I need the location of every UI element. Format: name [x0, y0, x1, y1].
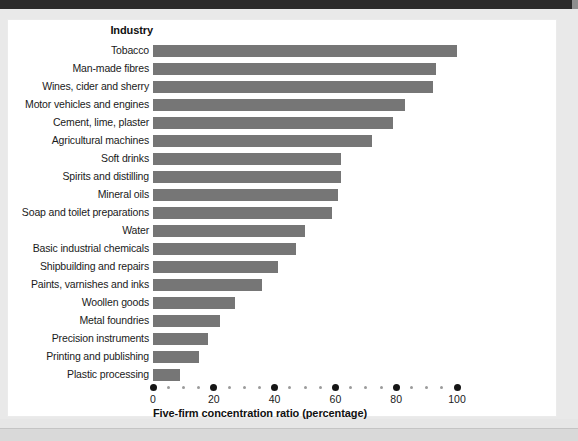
x-axis-minor-tick-dot: [349, 386, 352, 389]
bar: [153, 207, 332, 219]
bar-row-track: [153, 330, 556, 348]
bar-row-label: Water: [8, 222, 149, 240]
bar-row-track: [153, 96, 556, 114]
bar-row-label: Soap and toilet preparations: [8, 204, 149, 222]
x-axis-tick-label: 60: [330, 393, 342, 405]
bar-row-label: Tobacco: [8, 42, 149, 60]
bar-row-label: Agricultural machines: [8, 132, 149, 150]
category-axis-title: Industry: [8, 24, 153, 36]
bar: [153, 99, 405, 111]
bar-row: Soap and toilet preparations: [8, 204, 556, 222]
bar-chart: Industry TobaccoMan-made fibresWines, ci…: [8, 20, 556, 416]
x-axis-title: Five-firm concentration ratio (percentag…: [153, 407, 367, 419]
bar-row-label: Motor vehicles and engines: [8, 96, 149, 114]
bar: [153, 351, 199, 363]
bar-row-label: Soft drinks: [8, 150, 149, 168]
bar-row: Shipbuilding and repairs: [8, 258, 556, 276]
bar-row-label: Shipbuilding and repairs: [8, 258, 149, 276]
bar: [153, 279, 262, 291]
bar: [153, 225, 305, 237]
x-axis-minor-tick-dot: [243, 386, 246, 389]
x-axis-major-tick-dot: [454, 384, 461, 391]
page-bottom-band: [0, 428, 578, 441]
x-axis-major-tick-dot: [210, 384, 217, 391]
bar-row-track: [153, 294, 556, 312]
bar-row-label: Spirits and distilling: [8, 168, 149, 186]
bar-row-track: [153, 150, 556, 168]
bar-row-track: [153, 186, 556, 204]
bar-row: Soft drinks: [8, 150, 556, 168]
x-axis-minor-tick-dot: [228, 386, 231, 389]
bar-row-label: Plastic processing: [8, 366, 149, 384]
chart-card: Industry TobaccoMan-made fibresWines, ci…: [8, 20, 556, 416]
x-axis-major-tick-dot: [332, 384, 339, 391]
bar-row-track: [153, 168, 556, 186]
x-axis-major-tick-dot: [271, 384, 278, 391]
x-axis-minor-tick-dot: [410, 386, 413, 389]
bar-row-label: Woollen goods: [8, 294, 149, 312]
x-axis-minor-tick-dot: [425, 386, 428, 389]
bar-rows: TobaccoMan-made fibresWines, cider and s…: [8, 42, 556, 384]
x-axis-major-tick-dot: [150, 384, 157, 391]
x-axis-tick-label: 100: [448, 393, 466, 405]
bar-row: Spirits and distilling: [8, 168, 556, 186]
x-axis-minor-tick-dot: [167, 386, 170, 389]
bar: [153, 297, 235, 309]
x-axis-tick-label: 80: [390, 393, 402, 405]
bar-row-track: [153, 204, 556, 222]
bar-row-label: Precision instruments: [8, 330, 149, 348]
bar-row-label: Wines, cider and sherry: [8, 78, 149, 96]
bar: [153, 153, 341, 165]
bar-row: Paints, varnishes and inks: [8, 276, 556, 294]
bar-row-label: Paints, varnishes and inks: [8, 276, 149, 294]
bar-row-track: [153, 276, 556, 294]
bar-row-track: [153, 240, 556, 258]
bar: [153, 333, 208, 345]
bar: [153, 315, 220, 327]
bar-row: Man-made fibres: [8, 60, 556, 78]
bar-row-track: [153, 348, 556, 366]
bar-row-track: [153, 132, 556, 150]
x-axis-minor-tick-dot: [304, 386, 307, 389]
bar-row-label: Cement, lime, plaster: [8, 114, 149, 132]
bar-row: Woollen goods: [8, 294, 556, 312]
bar-row-track: [153, 60, 556, 78]
bar: [153, 189, 338, 201]
bar-row-label: Mineral oils: [8, 186, 149, 204]
x-axis-minor-tick-dot: [380, 386, 383, 389]
bar: [153, 243, 296, 255]
bar-row-track: [153, 78, 556, 96]
bar-row: Water: [8, 222, 556, 240]
bar: [153, 135, 372, 147]
bar-row-track: [153, 366, 556, 384]
x-axis-minor-tick-dot: [319, 386, 322, 389]
bar-row: Agricultural machines: [8, 132, 556, 150]
x-axis-tick-label: 0: [150, 393, 156, 405]
bar-row: Cement, lime, plaster: [8, 114, 556, 132]
x-axis-minor-tick-dot: [258, 386, 261, 389]
bar: [153, 45, 457, 57]
x-axis-tick-label: 40: [269, 393, 281, 405]
bar-row-track: [153, 258, 556, 276]
bar: [153, 117, 393, 129]
x-axis-minor-tick-dot: [182, 386, 185, 389]
bar-row: Basic industrial chemicals: [8, 240, 556, 258]
x-axis-minor-tick-dot: [440, 386, 443, 389]
bar-row: Mineral oils: [8, 186, 556, 204]
x-axis-minor-tick-dot: [288, 386, 291, 389]
bar: [153, 81, 433, 93]
bar-row: Precision instruments: [8, 330, 556, 348]
bar-row: Plastic processing: [8, 366, 556, 384]
x-axis-major-tick-dot: [393, 384, 400, 391]
bar: [153, 171, 341, 183]
bar-row-track: [153, 312, 556, 330]
x-axis-minor-tick-dot: [197, 386, 200, 389]
page-top-dark-band: [0, 0, 578, 9]
bar-row: Tobacco: [8, 42, 556, 60]
bar-row-label: Basic industrial chemicals: [8, 240, 149, 258]
bar-row: Motor vehicles and engines: [8, 96, 556, 114]
bar: [153, 369, 180, 381]
bar-row-label: Printing and publishing: [8, 348, 149, 366]
x-axis-tick-label: 20: [208, 393, 220, 405]
bar-row-track: [153, 42, 556, 60]
